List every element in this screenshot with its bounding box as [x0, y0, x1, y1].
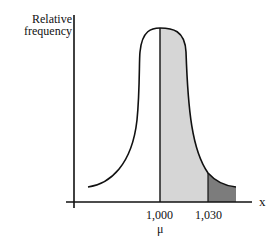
tick-label-1000: 1,000	[146, 209, 173, 221]
tick-label-1030: 1,030	[195, 209, 222, 221]
plot-area	[0, 0, 276, 250]
mean-symbol: μ	[157, 223, 163, 235]
x-axis-label: x	[259, 196, 266, 208]
chart: Relative frequency x 1,000 1,030 μ	[0, 0, 276, 250]
shaded-region-mean-to-1030	[160, 28, 208, 202]
